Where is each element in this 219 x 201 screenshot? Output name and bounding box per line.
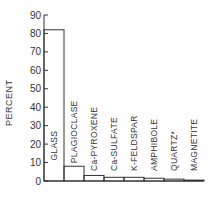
category-label: Ca-SULFATE xyxy=(109,117,119,171)
category-label: AMPHIBOLE xyxy=(149,119,159,171)
y-tick-label: 50 xyxy=(30,83,42,94)
y-tick-label: 60 xyxy=(30,65,42,76)
category-label: Ca-PYROXENE xyxy=(89,107,99,171)
y-tick-label: 80 xyxy=(30,28,42,39)
y-tick-label: 40 xyxy=(30,102,42,113)
bar-quartz xyxy=(164,179,184,181)
category-label: QUARTZ* xyxy=(169,130,179,171)
category-label: K-FELDSPAR xyxy=(129,115,139,171)
bar-amphibole xyxy=(144,178,164,181)
y-tick-label: 20 xyxy=(30,139,42,150)
y-axis-label: PERCENT xyxy=(4,79,14,126)
y-tick-label: 0 xyxy=(35,176,41,187)
bar-magnetite xyxy=(184,180,204,181)
category-label: MAGNETITE xyxy=(189,119,199,171)
y-tick-label: 90 xyxy=(30,10,42,21)
bar-casulfate xyxy=(104,177,124,181)
y-tick-label: 70 xyxy=(30,46,42,57)
y-tick-label: 30 xyxy=(30,120,42,131)
bar-chart: 0102030405060708090PERCENTGLASSPLAGIOCLA… xyxy=(0,0,219,201)
y-tick-label: 10 xyxy=(30,157,42,168)
category-label: GLASS xyxy=(49,131,59,161)
category-label: PLAGIOCLASE xyxy=(69,100,79,163)
bar-kfeldspar xyxy=(124,177,144,181)
bar-plagioclase xyxy=(64,166,84,181)
bar-capyroxene xyxy=(84,175,104,181)
